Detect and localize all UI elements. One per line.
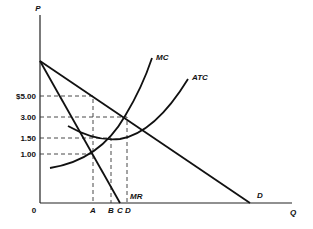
- quantity-tick-label: D: [125, 206, 131, 215]
- quantity-tick-label: B: [108, 206, 114, 215]
- mc-label: MC: [156, 53, 169, 62]
- monopoly-diagram: P Q 0 $5.00 3.00 1.50 1.00 A B C D MC AT…: [0, 0, 313, 229]
- marginal-cost-curve: [50, 58, 152, 168]
- x-axis-label: Q: [290, 208, 297, 217]
- price-tick-label: $5.00: [16, 92, 37, 101]
- origin-label: 0: [32, 206, 37, 215]
- price-tick-label: 3.00: [20, 113, 36, 122]
- quantity-tick-label: A: [89, 206, 96, 215]
- y-axis-label: P: [35, 4, 41, 13]
- price-tick-label: 1.50: [20, 134, 36, 143]
- price-tick-label: 1.00: [20, 150, 36, 159]
- guide-price-5: [40, 96, 93, 203]
- guide-price-3: [40, 117, 127, 203]
- demand-curve: [40, 61, 250, 203]
- atc-label: ATC: [191, 73, 208, 82]
- guide-price-1-50: [40, 138, 111, 203]
- quantity-tick-label: C: [117, 206, 123, 215]
- demand-label: D: [257, 191, 263, 200]
- mr-label: MR: [130, 192, 143, 201]
